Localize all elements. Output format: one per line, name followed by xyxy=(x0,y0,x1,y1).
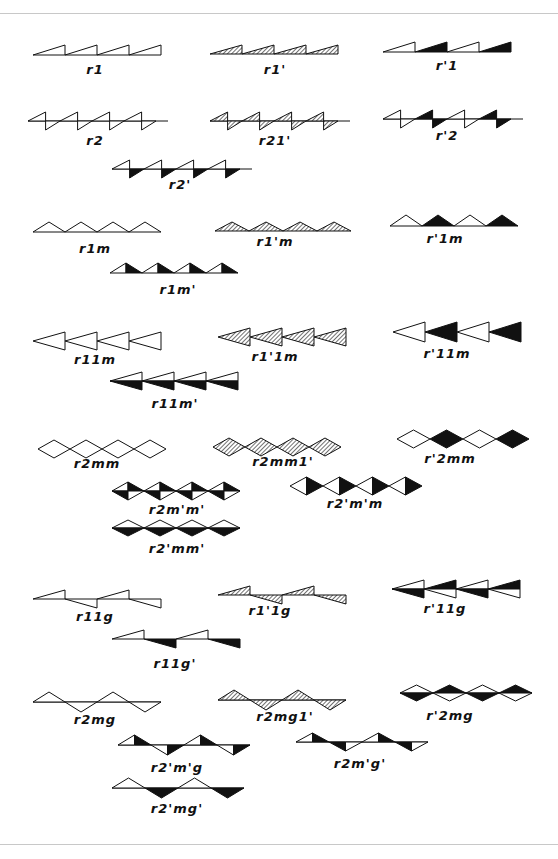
frieze-motif-graphic xyxy=(296,733,446,755)
frieze-motif-graphic xyxy=(218,586,368,608)
frieze-label: r2'mm' xyxy=(149,541,206,556)
frieze-motif-graphic xyxy=(393,322,543,344)
frieze-label: r'2mg xyxy=(426,708,473,723)
frieze-label: r11g xyxy=(76,609,114,624)
frieze-label: r1'1m xyxy=(251,349,298,364)
frieze-motif-graphic xyxy=(28,112,178,134)
frieze-label: r11m' xyxy=(151,396,198,411)
frieze-label: r11g' xyxy=(154,656,197,671)
frieze-motif-graphic xyxy=(218,328,368,350)
frieze-label: r2'm'g xyxy=(151,760,203,775)
frieze-motif-graphic xyxy=(118,735,268,757)
frieze-motif-graphic xyxy=(112,630,262,652)
frieze-label: r'2mm xyxy=(424,451,476,466)
top-border-rule xyxy=(0,13,558,14)
frieze-motif-graphic xyxy=(112,778,262,800)
frieze-motif-graphic xyxy=(112,520,262,542)
frieze-label: r1' xyxy=(264,62,286,77)
frieze-label: r2m'm' xyxy=(149,502,206,517)
frieze-label: r1m' xyxy=(160,282,197,297)
frieze-motif-graphic xyxy=(110,372,260,394)
frieze-label: r1 xyxy=(86,62,103,77)
bottom-border-rule xyxy=(0,844,558,845)
frieze-motif-graphic xyxy=(392,580,542,602)
frieze-label: r2mm xyxy=(74,456,121,471)
frieze-label: r2mg1' xyxy=(256,709,313,724)
frieze-label: r2 xyxy=(86,133,103,148)
frieze-label: r'2 xyxy=(436,128,458,143)
frieze-label: r1'1g xyxy=(249,603,292,618)
frieze-motif-graphic xyxy=(400,685,550,707)
frieze-label: r2'm'm xyxy=(327,496,384,511)
frieze-motif-graphic xyxy=(112,482,262,504)
frieze-label: r'1m xyxy=(427,231,464,246)
frieze-label: r1'm xyxy=(257,234,294,249)
frieze-label: r21' xyxy=(259,133,291,148)
frieze-motif-graphic xyxy=(390,215,540,237)
frieze-motif-graphic xyxy=(33,692,183,714)
frieze-motif-graphic xyxy=(33,45,183,67)
frieze-label: r'11m xyxy=(423,346,470,361)
frieze-label: r2m'g' xyxy=(334,756,386,771)
frieze-label: r'11g xyxy=(424,601,467,616)
frieze-label: r1m xyxy=(79,241,111,256)
frieze-label: r'1 xyxy=(436,58,458,73)
frieze-motif-graphic xyxy=(33,332,183,354)
frieze-label: r2'mg' xyxy=(151,801,203,816)
frieze-label: r2mm1' xyxy=(252,454,314,469)
frieze-label: r2mg xyxy=(74,712,116,727)
frieze-label: r11m xyxy=(74,352,116,367)
frieze-motif-graphic xyxy=(210,112,360,134)
frieze-motif-graphic xyxy=(397,430,547,452)
frieze-label: r2' xyxy=(169,177,191,192)
